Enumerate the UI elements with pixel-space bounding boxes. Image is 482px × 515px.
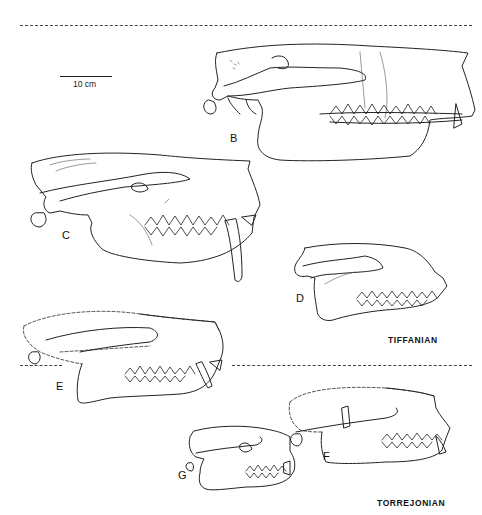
skull-g-drawing <box>186 423 296 495</box>
scale-bar-label: 10 cm <box>73 79 96 89</box>
scale-bar <box>60 76 112 77</box>
specimen-label-b: B <box>230 132 237 144</box>
skull-c-drawing <box>30 145 270 285</box>
specimen-label-f: F <box>323 450 330 462</box>
specimen-label-c: C <box>62 229 70 241</box>
middle-divider-right <box>232 365 472 366</box>
top-divider <box>20 25 472 26</box>
skull-e-drawing <box>20 304 230 414</box>
specimen-label-g: G <box>178 469 187 481</box>
specimen-label-e: E <box>56 380 63 392</box>
skull-d-drawing <box>285 238 465 338</box>
skull-f-drawing <box>286 382 466 482</box>
specimen-label-d: D <box>296 292 304 304</box>
period-label-torrejonian: TORREJONIAN <box>377 498 445 508</box>
period-label-tiffanian: TIFFANIAN <box>388 335 438 345</box>
